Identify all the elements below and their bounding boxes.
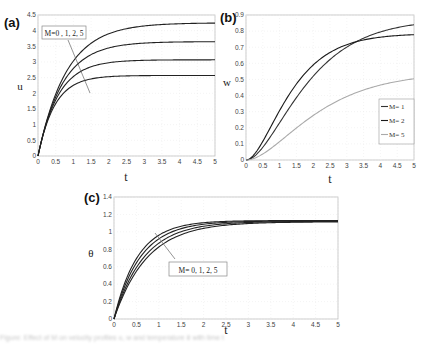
x-tick-label: 1 [72, 158, 76, 165]
y-tick-label: 0.2 [103, 298, 112, 305]
y-axis-label: w [223, 76, 231, 88]
x-tick-label: 5 [336, 321, 340, 328]
y-tick-label: 0.7 [235, 44, 244, 51]
y-tick-label: 2.5 [27, 74, 36, 81]
x-tick-label: 4 [178, 158, 182, 165]
panel-label-b: (b) [220, 10, 237, 25]
x-tick-label: 0.5 [258, 162, 267, 169]
panel-b-w-vs-t: 00.511.522.533.544.5500.10.20.30.40.50.6… [223, 11, 416, 186]
x-axis-label: t [124, 170, 128, 184]
annotation-text: M= 0, 1, 2, 5 [178, 266, 217, 275]
y-tick-label: 0.3 [235, 108, 244, 115]
x-tick-label: 2 [311, 162, 315, 169]
figure-caption: Figure: Effect of M on velocity profiles… [0, 334, 423, 344]
x-tick-label: 3.5 [266, 321, 275, 328]
x-tick-label: 1 [157, 321, 161, 328]
panel-c-theta-vs-t: 00.511.522.533.544.5500.20.40.60.811.21.… [88, 193, 340, 337]
x-tick-label: 2 [107, 158, 111, 165]
x-tick-label: 5 [412, 162, 416, 169]
y-tick-label: 2 [32, 90, 36, 97]
x-tick-label: 1.5 [177, 321, 186, 328]
y-axis-label: θ [88, 247, 93, 259]
x-tick-label: 1 [278, 162, 282, 169]
annotation-text: M=0 , 1, 2, 5 [44, 29, 83, 38]
y-tick-label: 0 [108, 315, 112, 322]
x-tick-label: 3 [345, 162, 349, 169]
x-tick-label: 4 [291, 321, 295, 328]
y-axis-label: u [17, 80, 23, 92]
x-tick-label: 2.5 [122, 158, 131, 165]
x-tick-label: 0 [36, 158, 40, 165]
x-tick-label: 0.5 [132, 321, 141, 328]
x-tick-label: 3.5 [359, 162, 368, 169]
y-tick-label: 1.5 [27, 105, 36, 112]
y-tick-label: 0.8 [235, 27, 244, 34]
y-tick-label: 1.2 [103, 211, 112, 218]
x-tick-label: 3 [247, 321, 251, 328]
x-tick-label: 4.5 [311, 321, 320, 328]
figure-canvas: 00.511.522.533.544.5500.511.522.533.544.… [0, 0, 423, 346]
y-tick-label: 0.1 [235, 140, 244, 147]
y-tick-label: 1 [32, 121, 36, 128]
x-tick-label: 2.5 [325, 162, 334, 169]
y-tick-label: 0 [240, 156, 244, 163]
y-tick-label: 1.4 [103, 193, 112, 200]
x-tick-label: 4.5 [193, 158, 202, 165]
x-tick-label: 4 [379, 162, 383, 169]
legend-entry: M= 2 [389, 117, 405, 125]
panel-label-a: (a) [4, 15, 20, 30]
x-tick-label: 3.5 [157, 158, 166, 165]
x-tick-label: 1.5 [87, 158, 96, 165]
y-tick-label: 4.5 [27, 11, 36, 18]
y-tick-label: 0.5 [235, 76, 244, 83]
x-axis-label: t [328, 172, 332, 186]
panel-label-c: (c) [84, 190, 100, 205]
x-tick-label: 0 [244, 162, 248, 169]
legend-entry: M= 1 [389, 103, 405, 111]
legend-entry: M= 5 [389, 131, 405, 139]
y-tick-label: 0.4 [103, 280, 112, 287]
y-tick-label: 0 [32, 152, 36, 159]
y-tick-label: 3 [32, 58, 36, 65]
y-tick-label: 0.6 [235, 60, 244, 67]
x-tick-label: 2 [202, 321, 206, 328]
y-tick-label: 0.6 [103, 263, 112, 270]
x-tick-label: 5 [213, 158, 217, 165]
x-tick-label: 3 [142, 158, 146, 165]
panel-a-u-vs-t: 00.511.522.533.544.5500.511.522.533.544.… [17, 11, 217, 184]
x-tick-label: 0 [112, 321, 116, 328]
y-tick-label: 4 [32, 27, 36, 34]
x-tick-label: 1.5 [292, 162, 301, 169]
y-tick-label: 0.4 [235, 92, 244, 99]
y-tick-label: 0.5 [27, 137, 36, 144]
y-tick-label: 1 [108, 228, 112, 235]
y-tick-label: 0.2 [235, 124, 244, 131]
y-tick-label: 3.5 [27, 43, 36, 50]
legend: M= 1M= 2M= 5 [379, 99, 414, 144]
x-tick-label: 4.5 [393, 162, 402, 169]
y-tick-label: 0.8 [103, 246, 112, 253]
x-tick-label: 0.5 [51, 158, 60, 165]
